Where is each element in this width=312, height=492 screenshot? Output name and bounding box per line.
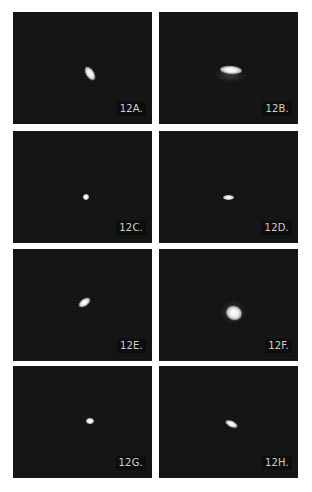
panel-label: 12A. <box>117 102 146 116</box>
panel-label: 12H. <box>262 456 292 470</box>
panel-label: 12D. <box>262 221 292 235</box>
panel-12c: 12C. <box>13 131 152 243</box>
panel-12g: 12G. <box>13 366 152 478</box>
figure-grid: 12A. 12B. 12C. 12D. 12E. 12F. 12G. 12H. <box>0 0 312 492</box>
panel-label: 12B. <box>262 102 292 116</box>
panel-label: 12G. <box>116 456 146 470</box>
bright-spot <box>83 65 98 82</box>
bright-spot <box>77 296 92 309</box>
panel-label: 12E. <box>117 339 146 353</box>
panel-12b: 12B. <box>159 12 298 124</box>
bright-spot <box>86 418 94 424</box>
bright-spot <box>223 195 234 200</box>
panel-12d: 12D. <box>159 131 298 243</box>
bright-spot <box>224 419 238 430</box>
panel-12h: 12H. <box>159 366 298 478</box>
bright-spot <box>83 194 89 200</box>
panel-label: 12F. <box>265 339 292 353</box>
panel-12e: 12E. <box>13 249 152 361</box>
panel-12a: 12A. <box>13 12 152 124</box>
panel-12f: 12F. <box>159 249 298 361</box>
panel-label: 12C. <box>116 221 146 235</box>
